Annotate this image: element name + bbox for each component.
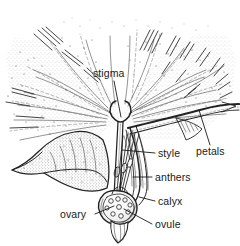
label-ovary: ovary xyxy=(60,208,87,220)
label-ovule: ovule xyxy=(155,218,181,230)
ovule-9 xyxy=(117,205,122,210)
ovule-2 xyxy=(116,197,121,202)
flower-diagram-figure: stigma petals style anthers calyx ovule … xyxy=(0,0,240,246)
label-anthers: anthers xyxy=(155,171,191,183)
ovule-1 xyxy=(109,199,114,204)
ovule-4 xyxy=(128,203,132,207)
ovule-7 xyxy=(111,212,115,216)
label-petals: petals xyxy=(196,145,225,157)
flower-diagram-canvas: stigma petals style anthers calyx ovule … xyxy=(0,0,240,246)
label-style: style xyxy=(158,147,180,159)
label-stigma: stigma xyxy=(93,67,125,79)
ovule-6 xyxy=(119,214,124,219)
ovule-3 xyxy=(123,198,127,202)
label-calyx: calyx xyxy=(158,195,183,207)
